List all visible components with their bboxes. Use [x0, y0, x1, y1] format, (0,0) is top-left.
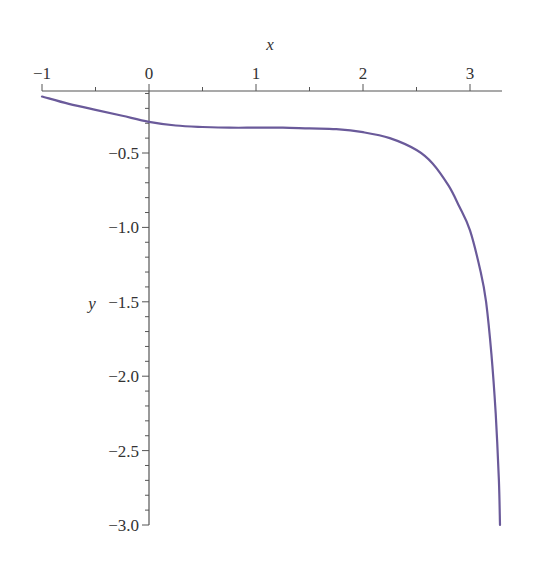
y-tick-label: −0.5	[108, 144, 139, 163]
y-tick-label: −2.5	[108, 442, 139, 461]
x-tick-label: −1	[33, 64, 51, 83]
y-axis: −0.5−1.0−1.5−2.0−2.5−3.0	[108, 91, 149, 535]
y-tick-label: −1.5	[108, 293, 139, 312]
x-axis: −10123	[33, 64, 502, 91]
x-tick-label: 0	[145, 64, 154, 83]
y-tick-label: −1.0	[108, 218, 139, 237]
x-axis-label: x	[265, 35, 274, 54]
x-tick-label: 3	[466, 64, 475, 83]
line-chart: −10123 −0.5−1.0−1.5−2.0−2.5−3.0 x y	[0, 0, 540, 569]
y-tick-label: −3.0	[108, 516, 139, 535]
y-axis-label: y	[86, 294, 96, 313]
x-tick-label: 2	[359, 64, 368, 83]
y-tick-label: −2.0	[108, 367, 139, 386]
x-tick-label: 1	[252, 64, 261, 83]
